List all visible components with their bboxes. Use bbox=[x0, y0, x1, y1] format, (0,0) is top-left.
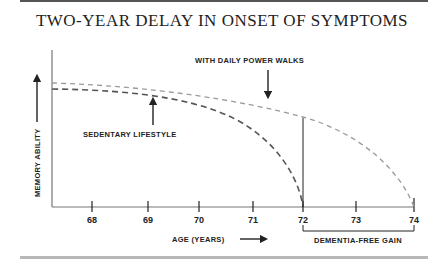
series-sedentary-line bbox=[52, 89, 303, 207]
bottom-rule bbox=[20, 256, 428, 259]
gain-label: DEMENTIA-FREE GAIN bbox=[314, 236, 402, 245]
svg-text:72: 72 bbox=[298, 215, 308, 225]
sedentary-label: SEDENTARY LIFESTYLE bbox=[83, 130, 177, 139]
svg-text:70: 70 bbox=[194, 215, 204, 225]
svg-text:74: 74 bbox=[409, 215, 419, 225]
x-tick-labels: 68 69 70 71 72 73 74 bbox=[87, 215, 419, 225]
svg-text:73: 73 bbox=[351, 215, 361, 225]
svg-text:71: 71 bbox=[248, 215, 258, 225]
x-axis-label: AGE (YEARS) bbox=[172, 235, 225, 244]
svg-text:68: 68 bbox=[87, 215, 97, 225]
y-axis-label: MEMORY ABILITY bbox=[33, 128, 42, 197]
gain-bracket bbox=[303, 225, 414, 231]
series-walks-line bbox=[52, 83, 414, 207]
walks-label: WITH DAILY POWER WALKS bbox=[195, 56, 304, 65]
svg-text:69: 69 bbox=[143, 215, 153, 225]
chart-plot: 68 69 70 71 72 73 74 WITH DAILY POWER WA… bbox=[0, 0, 444, 272]
x-ticks bbox=[92, 198, 414, 212]
